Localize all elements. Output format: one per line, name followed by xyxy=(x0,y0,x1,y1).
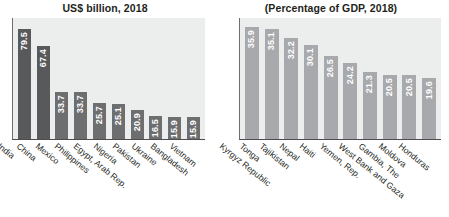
chart-title-right: (Percentage of GDP, 2018) xyxy=(226,2,436,14)
bar: 33.7 xyxy=(74,92,87,139)
remittances-figure: US$ billion, 2018 79.567.433.733.725.725… xyxy=(0,0,449,217)
bar-group-left: 79.567.433.733.725.725.120.916.515.915.9 xyxy=(15,18,203,139)
bar-value-label: 25.7 xyxy=(93,106,106,124)
bar: 19.6 xyxy=(422,78,436,139)
bar-value-label: 15.9 xyxy=(187,120,200,138)
category-label: India xyxy=(0,141,17,161)
bar-value-label: 33.7 xyxy=(74,95,87,113)
plot-area-right: 35.935.132.230.126.524.221.320.520.519.6 xyxy=(239,18,441,140)
bar-value-label: 19.6 xyxy=(423,81,436,99)
bar: 35.9 xyxy=(245,27,259,139)
bar: 15.9 xyxy=(168,117,181,139)
bar-value-label: 25.1 xyxy=(112,107,125,125)
bar-value-label: 15.9 xyxy=(168,120,181,138)
bar-value-label: 67.4 xyxy=(37,49,50,67)
bar: 24.2 xyxy=(343,63,357,139)
bar-value-label: 35.9 xyxy=(245,30,258,48)
category-axis-left: IndiaChinaMexicoPhilippinesEgypt, Arab R… xyxy=(0,141,222,217)
category-label: China xyxy=(15,141,39,163)
bar: 35.1 xyxy=(265,29,279,139)
bar-value-label: 20.9 xyxy=(131,113,144,131)
bar-value-label: 20.5 xyxy=(403,78,416,96)
bar: 16.5 xyxy=(149,116,162,139)
bar: 21.3 xyxy=(363,72,377,139)
bar-value-label: 21.3 xyxy=(363,75,376,93)
bar: 25.7 xyxy=(93,103,106,139)
bar-group-right: 35.935.132.230.126.524.221.320.520.519.6 xyxy=(242,18,439,139)
bar: 30.1 xyxy=(304,45,318,139)
chart-title-left: US$ billion, 2018 xyxy=(10,2,200,14)
category-axis-right: Kyrgyz RepublicTongaTajikistanNepalHaiti… xyxy=(222,141,449,217)
chart-panel-percentage-gdp: (Percentage of GDP, 2018) 35.935.132.230… xyxy=(222,0,449,217)
bar-value-label: 35.1 xyxy=(265,32,278,50)
bar: 20.5 xyxy=(402,75,416,139)
bar-value-label: 79.5 xyxy=(18,32,31,50)
plot-area-left: 79.567.433.733.725.725.120.916.515.915.9 xyxy=(12,18,205,140)
bar-value-label: 32.2 xyxy=(285,41,298,59)
bar-value-label: 20.5 xyxy=(383,78,396,96)
bar: 20.9 xyxy=(131,110,144,139)
chart-panel-usd-billion: US$ billion, 2018 79.567.433.733.725.725… xyxy=(0,0,222,217)
bar: 67.4 xyxy=(37,46,50,139)
bar-value-label: 33.7 xyxy=(55,95,68,113)
bar: 32.2 xyxy=(284,38,298,139)
bar: 79.5 xyxy=(18,29,31,139)
bar: 20.5 xyxy=(383,75,397,139)
bar-value-label: 26.5 xyxy=(324,59,337,77)
bar: 26.5 xyxy=(324,56,338,139)
bar-value-label: 30.1 xyxy=(304,48,317,66)
bar-value-label: 16.5 xyxy=(149,119,162,137)
bar: 33.7 xyxy=(55,92,68,139)
bar: 15.9 xyxy=(187,117,200,139)
bar: 25.1 xyxy=(112,104,125,139)
bar-value-label: 24.2 xyxy=(344,66,357,84)
